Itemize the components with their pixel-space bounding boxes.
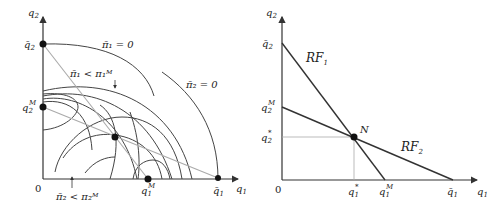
rf2-label: RF2 [400,140,423,156]
nash-equilibrium-point [351,134,358,141]
left-isoprofit-curves [43,44,218,179]
isoprofit-1-nash [100,105,116,179]
left-origin-label: 0 [35,183,41,194]
right-origin-label: 0 [275,184,281,195]
q2M-point [40,104,47,111]
reaction-function-rf1 [282,43,385,180]
right-xtick-qbar1: q̄1 [447,186,458,199]
right-ytick-qbar2: q̄2 [262,38,273,51]
right-y-axis-label: q2 [266,7,277,20]
label-pi1-zero: π̄₁ = 0 [101,39,134,50]
right-ytick-q2star: q2* [261,129,272,145]
left-x-axis-label: q1 [236,183,247,196]
isoprofit-2-c [85,157,115,173]
left-ytick-qbar2: q̄2 [24,39,35,52]
right-x-axis-label: q1 [477,186,488,199]
label-pi1-less: π̄₁ < π₁ᴹ [69,68,113,79]
left-isoprofit-diagram: q2 q1 0 q̄2 q2M q1M q̄1 π̄₁ = 0 π̄₂ = 0 … [22,7,247,202]
rf1-label: RF1 [305,51,328,67]
cournot-diagrams: q2 q1 0 q̄2 q2M q1M q̄1 π̄₁ = 0 π̄₂ = 0 … [0,0,502,223]
left-xtick-qbar1: q̄1 [213,185,224,198]
qbar1-point [215,175,221,181]
label-pi2-less: π̄₂ < π₂ᴹ [55,191,99,202]
left-y-axis-label: q2 [28,7,39,20]
nash-point-left [112,134,119,141]
right-ytick-q2M: q2M [261,99,276,115]
right-xtick-q1M: q1M [379,183,394,199]
isoprofit-1-c [43,101,92,150]
label-pi2-zero: π̄₂ = 0 [185,79,218,90]
left-ytick-q2M: q2M [22,99,37,115]
qbar2-point [40,41,47,48]
left-xtick-q1M: q1M [141,182,156,198]
isoprofit-1-a [43,94,172,179]
isoprofit-1-inner [43,94,78,130]
nash-label: N [359,124,370,135]
right-reaction-function-diagram: q2 q1 0 q̄2 q2M q2* q1* q1M q̄1 RF1 RF2 … [261,7,488,199]
isoprofit-2-a [55,117,182,179]
reaction-function-rf2 [282,107,453,180]
right-xtick-q1star: q1* [348,183,359,199]
